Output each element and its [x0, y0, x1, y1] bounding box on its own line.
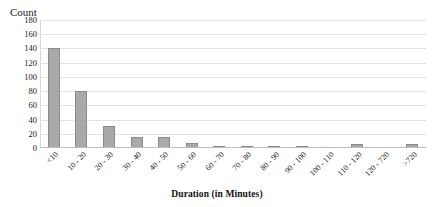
y-tick-label: 60 [29, 101, 38, 110]
bar-slot [205, 20, 233, 148]
y-tick-label: 20 [29, 129, 38, 138]
x-tick-label: 80 - 90 [258, 150, 280, 172]
x-tick-label: 40 - 50 [148, 150, 170, 172]
bar [75, 91, 87, 148]
bar-slot [371, 20, 399, 148]
x-axis-title: Duration (in Minutes) [0, 189, 434, 199]
x-tick-label: <10 [45, 150, 60, 165]
x-tick-slot: 10 - 20 [68, 150, 96, 190]
bar-chart: Count 180160140120100806040200 <1010 - 2… [0, 0, 434, 207]
x-tick-slot: 70 - 80 [233, 150, 261, 190]
y-tick-label: 0 [33, 144, 37, 153]
y-tick-label: 140 [24, 44, 37, 53]
y-tick-label: 100 [24, 72, 37, 81]
y-tick-label: 180 [24, 16, 37, 25]
plot-area: 180160140120100806040200 [40, 20, 426, 148]
bar-slot [178, 20, 206, 148]
bar-slot [343, 20, 371, 148]
x-tick-slot: 30 - 40 [123, 150, 151, 190]
bar-series [40, 20, 426, 148]
y-tick-label: 80 [29, 87, 38, 96]
bar-slot [316, 20, 344, 148]
x-tick-slot: 20 - 30 [95, 150, 123, 190]
bar-slot [261, 20, 289, 148]
x-tick-label: 30 - 40 [120, 150, 142, 172]
bar [103, 126, 115, 148]
x-tick-label: 70 - 80 [231, 150, 253, 172]
x-tick-slot: 40 - 50 [150, 150, 178, 190]
x-tick-label: 50 - 60 [176, 150, 198, 172]
y-tick-label: 160 [24, 30, 37, 39]
bar-slot [399, 20, 427, 148]
x-tick-label: 10 - 20 [65, 150, 87, 172]
x-tick-slot: 50 - 60 [178, 150, 206, 190]
bar-slot [150, 20, 178, 148]
x-tick-slot: >720 [399, 150, 427, 190]
bar-slot [288, 20, 316, 148]
x-tick-slot: <10 [40, 150, 68, 190]
y-tick-label: 40 [29, 115, 38, 124]
y-tick-label: 120 [24, 58, 37, 67]
bar-slot [123, 20, 151, 148]
bar [48, 48, 60, 148]
bar-slot [95, 20, 123, 148]
x-tick-label: 20 - 30 [93, 150, 115, 172]
x-tick-label: >720 [401, 150, 419, 168]
x-tick-slot: 60 - 70 [205, 150, 233, 190]
bar-slot [40, 20, 68, 148]
bar-slot [68, 20, 96, 148]
x-tick-label: 60 - 70 [203, 150, 225, 172]
x-tick-slot: 120 - 720 [371, 150, 399, 190]
bar-slot [233, 20, 261, 148]
x-axis-ticks: <1010 - 2020 - 3030 - 4040 - 5050 - 6060… [40, 150, 426, 190]
x-axis-line [40, 147, 426, 148]
